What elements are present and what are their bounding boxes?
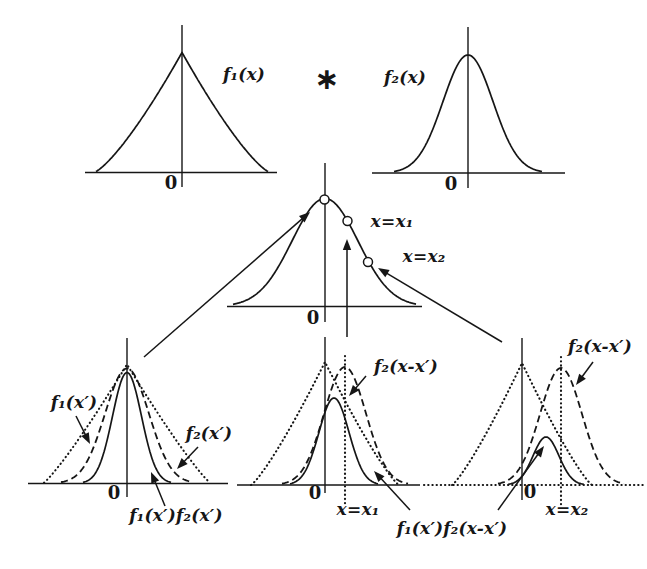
label-f2-of-xprime: f₂(x′) — [186, 423, 233, 443]
arrow-up-at-x1-head — [343, 239, 351, 250]
br-product-curve — [508, 437, 584, 484]
arrow-product-to-right-head — [534, 446, 544, 457]
label-x-eq-x1-bottom: x=x₁ — [337, 499, 380, 519]
label-x-eq-x2-middle: x=x₂ — [403, 246, 446, 266]
arrow-f1f2xp-label-head — [151, 472, 159, 484]
label-x-eq-x2-bottom: x=x₂ — [546, 499, 589, 519]
origin-bottom-left: 0 — [108, 482, 121, 503]
arrow-to-x2-point-head — [378, 268, 390, 277]
point-at-x2 — [364, 258, 373, 267]
origin-top-left: 0 — [165, 172, 178, 193]
label-f1f2-of-xprime: f₁(x′)f₂(x′) — [129, 505, 222, 525]
arrow-to-x2-point — [386, 273, 502, 342]
arrow-to-peak-point — [144, 218, 303, 357]
convolution-figure: f₁(x) ∗ f₂(x) 0 0 x=x₁ x=x₂ 0 f₁(x′) f₂(… — [0, 0, 647, 569]
arrow-f2shift-right-label-head — [576, 374, 586, 385]
label-x-eq-x1-middle: x=x₁ — [371, 211, 414, 231]
label-f2-of-x: f₂(x) — [384, 67, 426, 87]
origin-bottom-middle: 0 — [309, 482, 322, 503]
arrow-f1xp-label — [76, 416, 86, 436]
point-at-peak — [320, 195, 329, 204]
point-at-x1 — [343, 217, 352, 226]
label-f1f2-product: f₁(x′)f₂(x-x′) — [397, 518, 508, 538]
arrow-f2shift-right-label — [581, 362, 593, 378]
origin-bottom-right: 0 — [524, 481, 537, 502]
label-f2-shifted-right: f₂(x-x′) — [568, 336, 632, 356]
convolution-star-symbol: ∗ — [314, 61, 339, 96]
arrow-product-to-mid — [380, 478, 410, 510]
origin-top-right: 0 — [445, 173, 458, 194]
origin-middle: 0 — [307, 307, 320, 328]
label-f2-shifted-middle: f₂(x-x′) — [374, 356, 438, 376]
label-f1-of-x: f₁(x) — [223, 64, 265, 84]
label-f1-of-xprime: f₁(x′) — [51, 392, 98, 412]
